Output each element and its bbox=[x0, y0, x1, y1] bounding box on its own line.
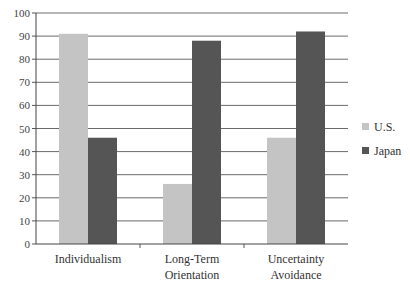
category-label: Avoidance bbox=[270, 268, 321, 282]
category-label: Orientation bbox=[165, 268, 220, 282]
y-axis-tick-labels: 0102030405060708090100 bbox=[14, 7, 31, 250]
legend-label: U.S. bbox=[374, 120, 395, 134]
y-tick-label: 10 bbox=[19, 215, 31, 227]
y-tick-label: 90 bbox=[19, 30, 31, 42]
category-label: Long-Term bbox=[165, 252, 220, 266]
bar-japan-1 bbox=[192, 41, 221, 244]
y-tick-label: 0 bbox=[25, 238, 31, 250]
y-tick-label: 100 bbox=[14, 7, 31, 19]
y-tick-label: 30 bbox=[19, 169, 31, 181]
legend: U.S.Japan bbox=[362, 120, 401, 158]
y-tick-label: 70 bbox=[19, 76, 31, 88]
legend-swatch bbox=[362, 147, 369, 154]
bar-chart: 0102030405060708090100 IndividualismLong… bbox=[0, 0, 410, 285]
legend-label: Japan bbox=[374, 144, 401, 158]
category-label: Individualism bbox=[55, 252, 122, 266]
bar-us-0 bbox=[59, 34, 88, 244]
legend-swatch bbox=[362, 123, 369, 130]
bars bbox=[59, 31, 325, 244]
y-tick-label: 20 bbox=[19, 192, 31, 204]
y-tick-label: 50 bbox=[19, 123, 31, 135]
y-tick-label: 40 bbox=[19, 146, 31, 158]
y-tick-label: 60 bbox=[19, 99, 31, 111]
bar-japan-2 bbox=[296, 31, 325, 244]
x-axis-category-labels: IndividualismLong-TermOrientationUncerta… bbox=[55, 252, 325, 282]
y-tick-label: 80 bbox=[19, 53, 31, 65]
bar-us-1 bbox=[163, 184, 192, 244]
bar-japan-0 bbox=[88, 138, 117, 244]
category-label: Uncertainty bbox=[268, 252, 325, 266]
bar-us-2 bbox=[267, 138, 296, 244]
